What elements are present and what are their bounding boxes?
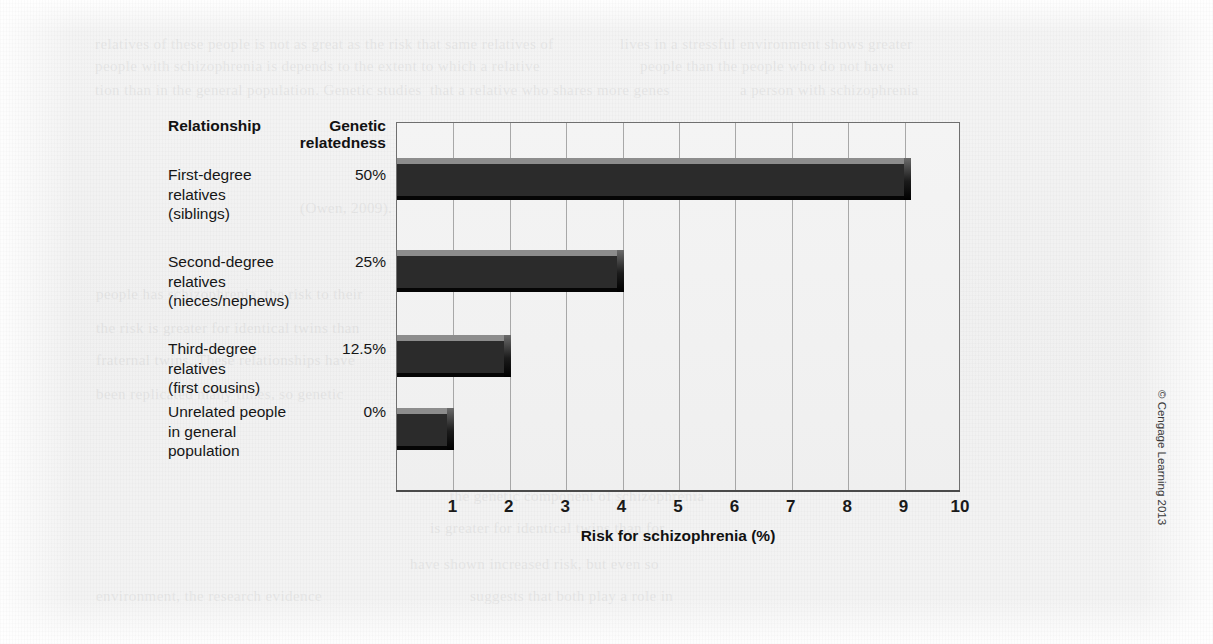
bar-0 bbox=[397, 158, 910, 200]
x-tick-8: 8 bbox=[827, 497, 867, 517]
column-header-genetic-line2: relatedness bbox=[258, 134, 386, 151]
column-header-relationship: Relationship bbox=[168, 117, 261, 134]
genetic-relatedness-value-1: 25% bbox=[258, 252, 386, 272]
bar-1 bbox=[397, 250, 623, 292]
x-tick-6: 6 bbox=[714, 497, 754, 517]
genetic-relatedness-value-0: 50% bbox=[258, 165, 386, 185]
schizophrenia-risk-figure: Relationship Genetic relatedness First-d… bbox=[0, 0, 1213, 644]
x-axis-title: Risk for schizophrenia (%) bbox=[396, 527, 960, 545]
bar-end-cap-0 bbox=[904, 158, 911, 200]
bar-2 bbox=[397, 335, 510, 377]
x-tick-10: 10 bbox=[940, 497, 980, 517]
x-tick-3: 3 bbox=[545, 497, 585, 517]
genetic-relatedness-value-2: 12.5% bbox=[258, 339, 386, 359]
bar-3 bbox=[397, 408, 453, 450]
bar-end-cap-2 bbox=[504, 335, 511, 377]
plot-area bbox=[396, 122, 960, 492]
x-tick-9: 9 bbox=[884, 497, 924, 517]
bar-end-cap-3 bbox=[447, 408, 454, 450]
x-tick-4: 4 bbox=[602, 497, 642, 517]
category-label-1-line-1: relatives bbox=[168, 272, 343, 292]
bar-end-cap-1 bbox=[617, 250, 624, 292]
x-tick-5: 5 bbox=[658, 497, 698, 517]
category-label-1-line-2: (nieces/nephews) bbox=[168, 291, 343, 311]
column-header-genetic-line1: Genetic bbox=[258, 117, 386, 134]
x-axis-line bbox=[396, 490, 960, 492]
category-label-0-line-2: (siblings) bbox=[168, 204, 343, 224]
x-tick-1: 1 bbox=[432, 497, 472, 517]
x-tick-2: 2 bbox=[489, 497, 529, 517]
column-header-genetic-relatedness: Genetic relatedness bbox=[258, 117, 386, 151]
genetic-relatedness-value-3: 0% bbox=[258, 402, 386, 422]
category-label-3-line-2: population bbox=[168, 441, 343, 461]
category-label-2-line-2: (first cousins) bbox=[168, 378, 343, 398]
x-tick-7: 7 bbox=[771, 497, 811, 517]
category-label-0-line-1: relatives bbox=[168, 185, 343, 205]
category-label-3-line-1: in general bbox=[168, 422, 343, 442]
category-label-2-line-1: relatives bbox=[168, 359, 343, 379]
copyright-credit: © Cengage Learning 2013 bbox=[1156, 390, 1168, 525]
